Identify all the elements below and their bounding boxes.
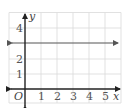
x-tick-2: 2 xyxy=(54,90,61,103)
x-axis-label: x xyxy=(113,90,120,103)
y-tick-1: 1 xyxy=(16,68,23,81)
x-tick-1: 1 xyxy=(38,90,45,103)
x-tick-3: 3 xyxy=(70,90,77,103)
y-tick-2: 2 xyxy=(16,53,23,66)
y-axis-label: y xyxy=(28,10,36,23)
origin-label: O xyxy=(14,90,23,103)
y-tick-4: 4 xyxy=(16,22,23,35)
coordinate-plane: y x O 1 2 3 4 5 1 2 4 xyxy=(0,0,127,108)
x-tick-4: 4 xyxy=(86,90,93,103)
x-tick-5: 5 xyxy=(102,90,109,103)
